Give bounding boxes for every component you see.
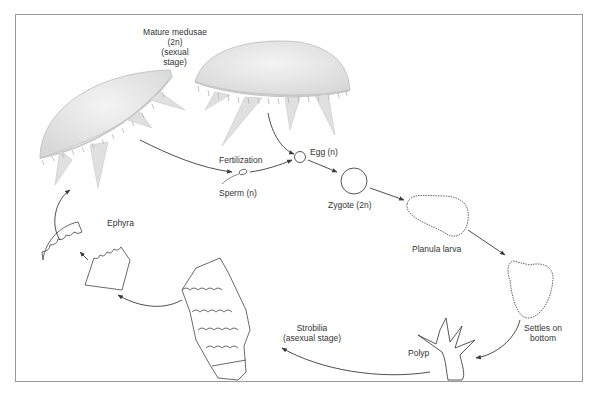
strobilia-icon — [182, 258, 250, 380]
settled-larva-icon — [508, 261, 553, 318]
label-egg: Egg (n) — [310, 147, 338, 157]
medusa-right-icon — [195, 41, 350, 146]
label-line: Mature medusae — [140, 27, 210, 37]
sperm-icon — [222, 168, 248, 184]
planula-larva-icon — [407, 195, 468, 236]
zygote-icon — [341, 168, 367, 194]
label-settles-on-bottom: Settles on bottom — [518, 323, 568, 343]
label-line: Strobilia — [276, 323, 348, 333]
egg-icon — [295, 152, 306, 163]
ephyra-icon — [42, 222, 130, 290]
label-line: bottom — [518, 333, 568, 343]
label-ephyra: Ephyra — [107, 218, 134, 228]
label-zygote: Zygote (2n) — [328, 200, 371, 210]
label-line: stage) — [140, 57, 210, 67]
label-line: Settles on — [518, 323, 568, 333]
label-line: (2n) — [140, 37, 210, 47]
label-mature-medusae: Mature medusae (2n) (sexual stage) — [140, 27, 210, 67]
label-line: (asexual stage) — [276, 333, 348, 343]
label-strobilia: Strobilia (asexual stage) — [276, 323, 348, 343]
label-polyp: Polyp — [408, 348, 429, 358]
label-sperm: Sperm (n) — [219, 188, 257, 198]
label-planula-larva: Planula larva — [412, 244, 461, 254]
label-fertilization: Fertilization — [219, 155, 262, 165]
medusa-left-icon — [40, 70, 185, 188]
label-line: (sexual — [140, 47, 210, 57]
